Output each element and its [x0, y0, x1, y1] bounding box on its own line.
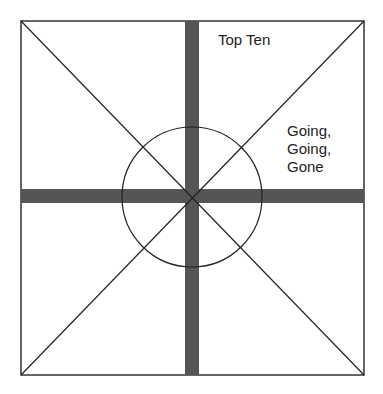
label-line-1: Going,: [287, 122, 331, 140]
diagram-canvas: [0, 0, 383, 394]
label-line-3: Gone: [287, 158, 331, 176]
label-going-going-gone: Going, Going, Gone: [287, 122, 331, 176]
label-top-ten: Top Ten: [218, 31, 270, 49]
label-line-2: Going,: [287, 140, 331, 158]
horizontal-bar: [21, 189, 364, 203]
